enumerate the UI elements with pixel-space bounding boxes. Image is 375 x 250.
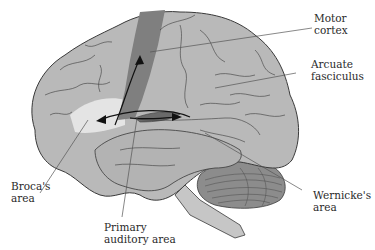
label-wernickes-area: Wernicke's area (313, 189, 371, 213)
label-motor-cortex: Motor cortex (314, 12, 348, 36)
label-brocas-area: Broca's area (11, 180, 50, 204)
label-arcuate-fasciculus: Arcuate fasciculus (311, 58, 364, 82)
label-primary-auditory-area: Primary auditory area (104, 221, 176, 245)
